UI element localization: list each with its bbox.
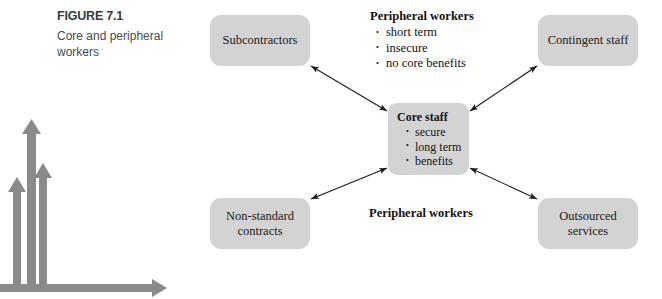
peripheral-workers-bullet-list: short term insecure no core benefits (370, 25, 474, 72)
peripheral-workers-bullet: no core benefits (376, 56, 474, 72)
figure-number: FIGURE 7.1 (57, 9, 187, 23)
arrow-outsourced-core (470, 168, 537, 199)
node-subcontractors: Subcontractors (210, 15, 310, 66)
arrow-nonstandard-core (311, 168, 387, 199)
node-contingent-staff-label: Contingent staff (542, 33, 635, 48)
arrow-contingent-core (470, 66, 537, 111)
node-subcontractors-label: Subcontractors (217, 33, 304, 48)
peripheral-workers-bullet: short term (376, 25, 474, 41)
core-staff-bullet: benefits (406, 154, 469, 169)
figure-caption-block: FIGURE 7.1 Core and peripheral workers (57, 9, 187, 60)
node-outsourced-services-label: Outsourced services (538, 209, 638, 239)
node-non-standard-contracts-label: Non-standard contracts (210, 209, 310, 239)
node-outsourced-services: Outsourced services (538, 198, 638, 249)
vertical-arrow-tall (22, 119, 41, 289)
core-staff-bullet: secure (406, 125, 469, 140)
node-core-staff-title: Core staff (397, 110, 469, 124)
horizontal-axis-arrow (0, 279, 167, 297)
arrow-subcontractors-core (311, 66, 387, 111)
peripheral-workers-bullet: insecure (376, 41, 474, 57)
corner-bar-arrow-graphic (0, 110, 200, 299)
node-non-standard-contracts: Non-standard contracts (210, 198, 310, 249)
vertical-arrow-medium (34, 163, 52, 289)
node-contingent-staff: Contingent staff (538, 15, 638, 66)
node-core-staff: Core staff secure long term benefits (388, 103, 469, 175)
annotation-peripheral-workers-title: Peripheral workers (370, 9, 474, 24)
core-staff-bullet: long term (406, 140, 469, 155)
annotation-peripheral-workers-bottom: Peripheral workers (369, 206, 473, 221)
figure-caption-text: Core and peripheral workers (57, 28, 187, 60)
vertical-arrow-short (8, 177, 26, 289)
core-staff-bullet-list: secure long term benefits (397, 125, 469, 169)
figure-page: FIGURE 7.1 Core and peripheral workers S… (0, 0, 662, 299)
annotation-peripheral-workers-top: Peripheral workers short term insecure n… (370, 9, 474, 72)
